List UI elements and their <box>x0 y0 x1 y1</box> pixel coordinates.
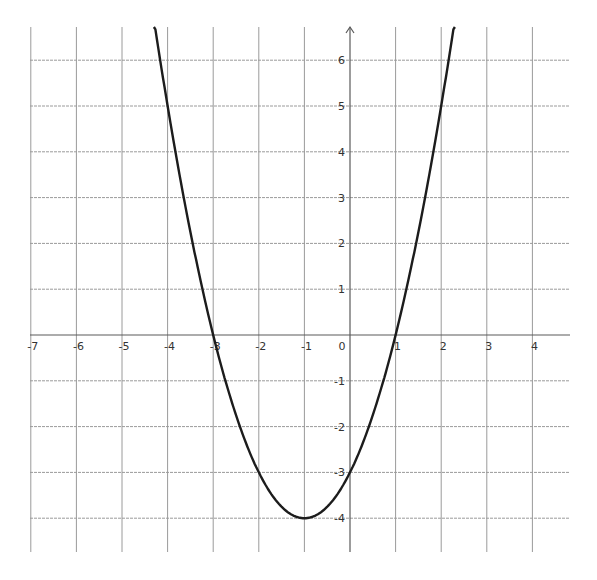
x-tick-label: -7 <box>27 340 38 353</box>
x-tick-label: 4 <box>531 340 538 353</box>
y-tick-label: 2 <box>338 237 345 250</box>
x-tick-label: 3 <box>485 340 492 353</box>
y-tick-label: -3 <box>334 466 345 479</box>
x-tick-label: -1 <box>301 340 312 353</box>
y-tick-label: 4 <box>338 146 345 159</box>
x-tick-label: -6 <box>73 340 84 353</box>
x-tick-label: 0 <box>339 340 346 353</box>
x-tick-label: -5 <box>119 340 130 353</box>
y-tick-label: 6 <box>338 54 345 67</box>
y-tick-label: 1 <box>338 283 345 296</box>
x-tick-label: -2 <box>255 340 266 353</box>
x-tick-label: -4 <box>164 340 175 353</box>
horizontal-gridlines <box>30 60 570 518</box>
x-tick-label: 1 <box>394 340 401 353</box>
y-tick-label: 5 <box>338 100 345 113</box>
y-tick-label: 3 <box>338 192 345 205</box>
y-tick-label: -2 <box>334 421 345 434</box>
y-tick-label: -1 <box>334 375 345 388</box>
y-tick-label: -4 <box>334 512 345 525</box>
function-graph: -7-6-5-4-3-2-101234 -4-3-2-1123456 <box>0 0 597 580</box>
x-tick-label: 2 <box>440 340 447 353</box>
x-tick-labels: -7-6-5-4-3-2-101234 <box>27 340 538 353</box>
